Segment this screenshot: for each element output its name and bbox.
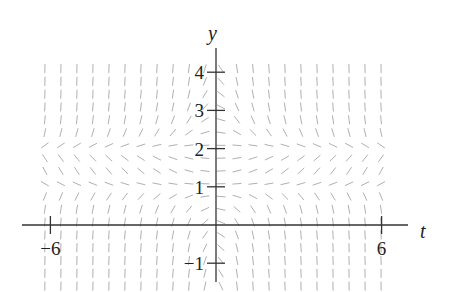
slope-segment bbox=[204, 269, 206, 278]
slope-segment bbox=[381, 115, 382, 124]
slope-segment bbox=[156, 103, 158, 112]
slope-segment bbox=[141, 256, 142, 265]
slope-segment bbox=[76, 205, 78, 214]
slope-segment bbox=[156, 231, 157, 240]
slope-segment bbox=[188, 90, 190, 99]
slope-segment bbox=[251, 206, 256, 214]
slope-segment bbox=[44, 128, 46, 137]
slope-segment bbox=[173, 282, 174, 291]
slope-segment bbox=[284, 205, 287, 214]
slope-segment bbox=[284, 103, 285, 112]
slope-segment bbox=[188, 231, 191, 240]
slope-segment bbox=[380, 128, 382, 137]
slope-segment bbox=[109, 103, 110, 112]
slope-segment bbox=[268, 116, 271, 125]
slope-segment bbox=[89, 143, 97, 147]
slope-segment bbox=[188, 77, 190, 86]
slope-segment bbox=[122, 193, 127, 200]
slope-segment bbox=[217, 132, 226, 133]
slope-segment bbox=[44, 115, 45, 124]
slope-segment bbox=[252, 90, 254, 99]
slope-segment bbox=[249, 169, 257, 172]
slope-segment bbox=[236, 269, 237, 278]
slope-segment bbox=[203, 244, 207, 252]
slope-segment bbox=[269, 243, 270, 252]
slope-segment bbox=[301, 243, 302, 252]
slope-segment bbox=[137, 144, 146, 147]
slope-segment bbox=[347, 193, 351, 201]
slope-segment bbox=[315, 193, 320, 201]
slope-segment bbox=[313, 144, 321, 148]
slope-segment bbox=[265, 169, 273, 174]
slope-segment bbox=[253, 269, 254, 278]
t-axis-label: t bbox=[420, 220, 426, 242]
slope-segment bbox=[252, 243, 253, 252]
slope-segment bbox=[201, 170, 210, 171]
slope-segment bbox=[74, 155, 80, 162]
slope-segment bbox=[361, 143, 369, 148]
slope-segment bbox=[363, 167, 368, 175]
slope-segment bbox=[171, 116, 174, 124]
slope-segment bbox=[379, 167, 383, 175]
slope-segment bbox=[331, 193, 336, 201]
slope-segment bbox=[345, 143, 353, 147]
slope-segment bbox=[329, 143, 337, 147]
slope-segment bbox=[349, 115, 350, 124]
slope-segment bbox=[381, 103, 382, 112]
slope-segment bbox=[155, 129, 160, 137]
slope-segment bbox=[172, 103, 174, 112]
slope-segment bbox=[365, 115, 366, 124]
slope-segment bbox=[185, 157, 194, 159]
slope-segment bbox=[58, 155, 63, 162]
slope-segment bbox=[91, 193, 95, 201]
slope-segment bbox=[138, 168, 145, 174]
slope-segment bbox=[202, 231, 207, 238]
slope-segment bbox=[74, 167, 79, 175]
slope-segment bbox=[153, 169, 161, 174]
slope-segment bbox=[250, 129, 256, 135]
slope-segment bbox=[219, 282, 223, 290]
slope-segment bbox=[139, 129, 143, 137]
slope-segment bbox=[316, 205, 318, 214]
slope-segment bbox=[173, 77, 174, 86]
slope-segment bbox=[265, 183, 274, 185]
slope-segment bbox=[282, 193, 288, 199]
slope-segment bbox=[269, 269, 270, 278]
slope-segment bbox=[169, 183, 178, 184]
slope-segment bbox=[217, 233, 225, 238]
slope-segment bbox=[348, 128, 350, 137]
y-tick-label: 2 bbox=[195, 139, 205, 160]
slope-segment bbox=[169, 157, 178, 160]
slope-segment bbox=[251, 116, 255, 124]
slope-segment bbox=[173, 64, 174, 73]
slope-segment bbox=[378, 155, 383, 162]
slope-segment bbox=[189, 282, 190, 291]
slope-segment bbox=[92, 205, 94, 214]
slope-segment bbox=[73, 182, 81, 186]
slope-segment bbox=[217, 221, 225, 224]
slope-segment bbox=[43, 192, 46, 200]
x-tick-label: −6 bbox=[40, 238, 60, 259]
slope-segment bbox=[140, 115, 142, 124]
slope-segment bbox=[60, 205, 61, 214]
slope-segment bbox=[300, 205, 302, 214]
slope-segment bbox=[141, 231, 142, 240]
slope-segment bbox=[330, 167, 336, 174]
slope-segment bbox=[236, 77, 238, 86]
slope-segment bbox=[90, 155, 96, 162]
slope-segment bbox=[188, 243, 190, 252]
slope-segment bbox=[349, 230, 350, 239]
slope-segment bbox=[285, 256, 286, 265]
slope-segment bbox=[297, 144, 306, 147]
slope-segment bbox=[157, 256, 158, 265]
slope-segment bbox=[41, 182, 49, 187]
slope-segment bbox=[125, 243, 126, 252]
slope-segment bbox=[348, 205, 350, 214]
slope-segment bbox=[299, 128, 303, 136]
slope-segment bbox=[123, 128, 126, 136]
slope-segment bbox=[234, 206, 241, 212]
slope-segment bbox=[347, 167, 352, 175]
slope-segment bbox=[233, 145, 242, 146]
slope-segment bbox=[253, 282, 254, 291]
slope-segment bbox=[186, 206, 192, 213]
